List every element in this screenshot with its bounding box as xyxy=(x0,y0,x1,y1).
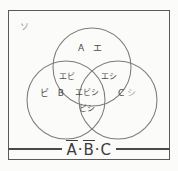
formula-rule-right xyxy=(116,148,170,149)
term-b-complement: B xyxy=(84,139,95,159)
boolean-expression: A·B·C xyxy=(62,139,115,159)
circle-set-c xyxy=(79,61,157,139)
region-label-a-and-c: エシ xyxy=(101,73,117,81)
region-label-a-and-b-and-c: エビシ xyxy=(75,89,100,97)
term-a-complement: A xyxy=(66,139,77,159)
universal-set-marker: ソ xyxy=(20,23,29,32)
region-label-b-and-c: ビシ xyxy=(79,105,95,113)
term-c: C xyxy=(101,141,112,159)
venn-diagram-canvas: ソ A エ エビ エシ エビシ ビシ ビ B Cシ A·B·C xyxy=(0,0,178,171)
region-label-b-only: ビ B xyxy=(40,89,67,98)
set-c-label: C xyxy=(118,88,127,98)
region-label-a-and-b: エビ xyxy=(59,73,75,81)
region-label-c-only: Cシ xyxy=(118,89,139,98)
formula-rule-left xyxy=(8,148,62,149)
formula-row: A·B·C xyxy=(8,138,170,160)
region-label-a-only: A エ xyxy=(78,44,105,53)
set-c-annotation: シ xyxy=(127,88,139,98)
